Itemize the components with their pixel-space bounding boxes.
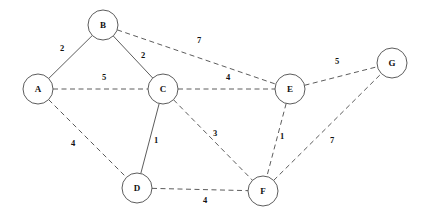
node-a[interactable]: A [23, 74, 53, 104]
graph-svg: 225745413174 ABCDEFG [0, 0, 425, 218]
edge-c-f [174, 100, 253, 181]
edge-labels-layer: 225745413174 [60, 35, 339, 205]
edge-a-b [49, 36, 93, 79]
edge-weight-c-e: 4 [226, 72, 231, 82]
node-f[interactable]: F [248, 176, 278, 206]
node-e[interactable]: E [275, 74, 305, 104]
graph-diagram-canvas: 225745413174 ABCDEFG [0, 0, 425, 218]
edge-b-c [113, 36, 152, 78]
edge-weight-b-c: 2 [141, 50, 145, 60]
node-g[interactable]: G [377, 48, 407, 78]
edge-weight-e-g: 5 [335, 56, 339, 66]
edge-d-f [152, 188, 248, 190]
node-label-c: C [160, 84, 167, 94]
nodes-layer: ABCDEFG [23, 10, 407, 206]
node-label-a: A [35, 84, 42, 94]
node-label-d: D [134, 183, 141, 193]
edge-weight-a-b: 2 [60, 43, 64, 53]
node-label-g: G [388, 58, 395, 68]
node-b[interactable]: B [88, 10, 118, 40]
edge-weight-a-c: 5 [102, 72, 106, 82]
edge-weight-f-g: 7 [330, 135, 335, 145]
edge-weight-b-e: 7 [197, 35, 202, 45]
node-label-f: F [260, 186, 266, 196]
node-label-b: B [100, 20, 106, 30]
edge-e-g [305, 67, 378, 86]
edge-weight-a-d: 4 [71, 138, 76, 148]
edge-a-d [49, 100, 127, 178]
edge-weight-e-f: 1 [280, 131, 284, 141]
edge-weight-c-d: 1 [154, 135, 158, 145]
node-c[interactable]: C [148, 74, 178, 104]
edges-layer [49, 30, 382, 191]
edge-weight-c-f: 3 [213, 128, 217, 138]
edge-weight-d-f: 4 [203, 195, 208, 205]
node-label-e: E [287, 84, 293, 94]
node-d[interactable]: D [122, 173, 152, 203]
